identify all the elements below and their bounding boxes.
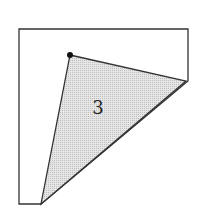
diagram-canvas: 3 xyxy=(0,0,204,211)
vertex-dot xyxy=(67,52,73,58)
triangle-label: 3 xyxy=(92,97,103,118)
